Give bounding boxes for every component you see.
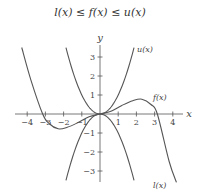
chart: l(x) ≤ f(x) ≤ u(x) x y −4−3−2−11234 321−…	[0, 0, 201, 194]
y-tick-label: 1	[90, 91, 95, 100]
x-tick-label: −4	[21, 118, 33, 127]
y-tick-label: 3	[90, 53, 95, 62]
x-tick-label: 3	[152, 118, 157, 127]
y-tick-label: −3	[83, 167, 95, 176]
y-axis-label: y	[96, 32, 103, 43]
x-tick-label: −2	[58, 118, 70, 127]
y-tick-label: −2	[83, 148, 95, 157]
curve-f	[22, 48, 177, 183]
x-tick-label: 4	[170, 118, 175, 127]
x-tick-label: 2	[134, 118, 139, 127]
f-label: f(x)	[152, 93, 167, 102]
chart-title: l(x) ≤ f(x) ≤ u(x)	[54, 6, 145, 19]
x-axis-label: x	[186, 108, 192, 119]
x-tick-label: 1	[116, 118, 121, 127]
y-tick-label: 2	[90, 72, 95, 81]
u-label: u(x)	[137, 45, 153, 54]
y-tick-label: −1	[83, 129, 95, 138]
l-label: l(x)	[153, 181, 166, 190]
